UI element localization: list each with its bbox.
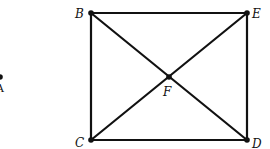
label-F: F: [162, 85, 172, 99]
point-C: [88, 137, 94, 143]
label-E: E: [251, 7, 261, 21]
point-E: [244, 10, 250, 16]
label-A: A: [0, 82, 5, 95]
point-B: [88, 10, 94, 16]
label-B: B: [74, 7, 84, 21]
label-C: C: [75, 136, 84, 149]
point-A: [0, 74, 3, 80]
square-diagram: B E C D F A: [0, 0, 270, 149]
point-D: [244, 137, 250, 143]
label-D: D: [251, 137, 262, 149]
point-F: [166, 74, 172, 80]
